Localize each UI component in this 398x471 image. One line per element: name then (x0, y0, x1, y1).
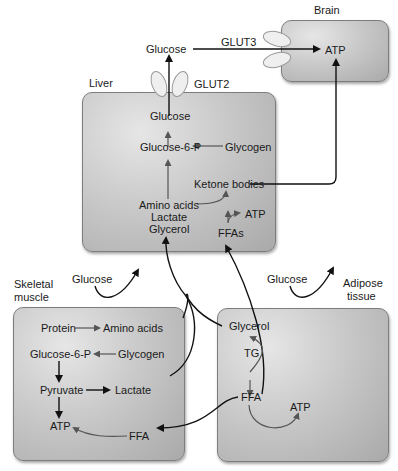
adipose-label-1: Adipose (343, 277, 383, 289)
muscle-protein: Protein (41, 322, 76, 334)
liver-amino-acids: Amino acids (139, 199, 199, 211)
adipose-tg: TG (244, 347, 259, 359)
muscle-atp: ATP (50, 420, 71, 432)
muscle-pyruvate: Pyruvate (40, 384, 83, 396)
glut3-label: GLUT3 (221, 36, 256, 48)
liver-glucose-6-p: Glucose-6-P (140, 141, 201, 153)
adipose-glycerol: Glycerol (229, 320, 269, 332)
liver-label: Liver (89, 77, 113, 89)
brain-atp: ATP (325, 44, 346, 56)
blood-glucose-out: Glucose (146, 43, 186, 55)
skeletal-muscle-label-1: Skeletal (14, 278, 53, 290)
blood-glucose-muscle: Glucose (72, 273, 112, 285)
pathway-arrows (0, 0, 398, 471)
liver-ffas: FFAs (218, 227, 244, 239)
liver-glycerol: Glycerol (149, 223, 189, 235)
liver-glucose: Glucose (150, 110, 190, 122)
adipose-ffa: FFA (241, 391, 261, 403)
muscle-ffa: FFA (129, 430, 149, 442)
adipose-label-2: tissue (347, 290, 376, 302)
liver-lactate: Lactate (151, 211, 187, 223)
muscle-glucose-6-p: Glucose-6-P (30, 348, 91, 360)
blood-glucose-adipose: Glucose (267, 273, 307, 285)
muscle-lactate: Lactate (115, 384, 151, 396)
muscle-glycogen: Glycogen (118, 348, 164, 360)
brain-label: Brain (314, 4, 340, 16)
muscle-amino-acids: Amino acids (103, 322, 163, 334)
adipose-atp: ATP (290, 401, 311, 413)
glut2-label: GLUT2 (194, 78, 229, 90)
liver-ketone-bodies: Ketone bodies (194, 178, 264, 190)
liver-atp: ATP (245, 208, 266, 220)
liver-glycogen: Glycogen (225, 141, 271, 153)
skeletal-muscle-label-2: muscle (14, 291, 49, 303)
